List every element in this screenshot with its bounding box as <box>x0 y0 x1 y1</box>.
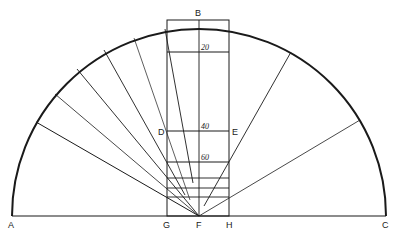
rectangle-ghb <box>167 20 229 216</box>
mark-20: 20 <box>201 43 209 52</box>
label-e: E <box>232 127 238 137</box>
mark-60: 60 <box>201 153 209 162</box>
label-f: F <box>196 220 202 230</box>
left-ray-1 <box>36 122 199 216</box>
label-d: D <box>158 127 165 137</box>
label-h: H <box>226 220 233 230</box>
left-ray-3 <box>77 69 199 216</box>
right-ray-1 <box>204 52 291 206</box>
label-b: B <box>195 8 201 18</box>
label-c: C <box>382 220 389 230</box>
label-g: G <box>163 220 170 230</box>
left-ray-2 <box>55 94 199 216</box>
label-a: A <box>8 220 14 230</box>
right-ray-2 <box>199 120 360 216</box>
mark-40: 40 <box>201 122 209 131</box>
semicircle-construction-diagram: A B C D E F G H 20 40 60 <box>0 0 397 234</box>
